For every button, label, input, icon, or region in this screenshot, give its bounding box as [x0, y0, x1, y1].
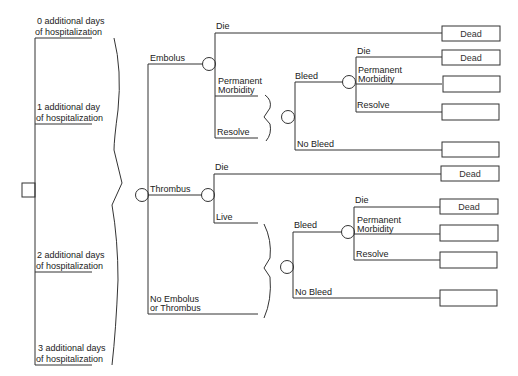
- svg-text:Dead: Dead: [459, 169, 481, 179]
- thrombus-bleed-label: Bleed: [294, 220, 317, 230]
- outcome-box-7: [440, 225, 498, 241]
- option-0-line1: 0 additional days: [37, 16, 105, 26]
- thrombus-bleed-resolve-label: Resolve: [356, 249, 389, 259]
- option-3-line2: of hospitalization: [36, 354, 103, 364]
- thrombus-bleed-chance-node: [281, 261, 294, 274]
- outcome-box-0: Dead: [442, 26, 500, 41]
- embolus-bleed-chance-node: [282, 111, 295, 124]
- embolus-die-label: Die: [216, 21, 230, 31]
- options-brace: [112, 38, 122, 365]
- thrombus-die-label: Die: [215, 162, 229, 172]
- option-0-line2: of hospitalization: [35, 27, 102, 37]
- embolus-nobleed-label: No Bleed: [297, 139, 334, 149]
- option-2-line2: of hospitalization: [36, 261, 103, 271]
- embolus-bleed-resolve-label: Resolve: [357, 100, 390, 110]
- thrombus-nobleed-label: No Bleed: [295, 287, 332, 297]
- option-2-line1: 2 additional days: [37, 250, 105, 260]
- embolus-bleed-label: Bleed: [295, 71, 318, 81]
- thrombus-bleed-outcome-node: [342, 226, 355, 239]
- decision-tree-diagram: 0 additional days of hospitalization 1 a…: [0, 0, 518, 376]
- thrombus-bleed-die-label: Die: [355, 195, 369, 205]
- outcome-box-2: [443, 76, 500, 92]
- tree-canvas: 0 additional days of hospitalization 1 a…: [0, 0, 518, 376]
- embolus-bleed-outcome-node: [343, 76, 356, 89]
- option-1-line2: of hospitalization: [36, 113, 103, 123]
- option-3-line1: 3 additional days: [38, 343, 106, 353]
- embolus-bleed-perm-label-2: Morbidity: [358, 74, 395, 84]
- decision-node: [22, 183, 35, 197]
- embolus-chance-node: [203, 58, 216, 71]
- outcome-box-6: Dead: [440, 199, 498, 214]
- thrombus-bleed-perm-label-2: Morbidity: [357, 224, 394, 234]
- thrombus-chance-node: [202, 189, 215, 202]
- embolus-bleed-die-label: Die: [357, 46, 371, 56]
- thrombus-brace: [264, 224, 270, 318]
- outcome-box-3: [442, 104, 499, 120]
- thrombus-label: Thrombus: [150, 184, 191, 194]
- embolus-label: Embolus: [150, 53, 186, 63]
- embolus-resolve-label: Resolve: [217, 127, 250, 137]
- option-1-line1: 1 additional day: [37, 102, 101, 112]
- embolus-perm-label-2: Morbidity: [218, 85, 255, 95]
- outcome-box-1: Dead: [442, 50, 500, 65]
- svg-text:Dead: Dead: [460, 29, 482, 39]
- svg-text:Dead: Dead: [460, 53, 482, 63]
- outcome-box-9: [440, 290, 497, 306]
- embolus-brace: [264, 95, 271, 141]
- outcome-box-4: [442, 142, 499, 157]
- outcome-box-8: [440, 252, 497, 268]
- thrombus-live-label: Live: [216, 212, 233, 222]
- outcome-box-5: Dead: [441, 166, 499, 181]
- main-chance-node: [136, 189, 149, 202]
- svg-text:Dead: Dead: [458, 202, 480, 212]
- none-label-2: or Thrombus: [150, 303, 201, 313]
